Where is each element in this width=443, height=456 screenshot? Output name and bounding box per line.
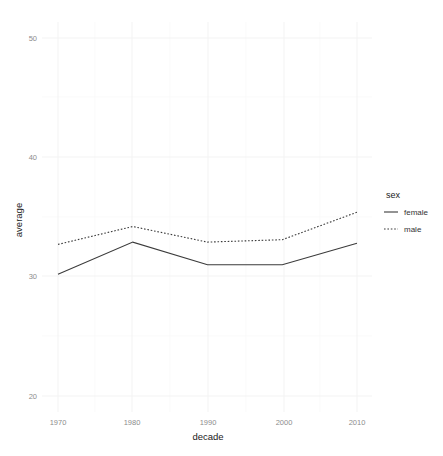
y-tick-label: 50	[29, 34, 37, 43]
x-tick-label: 1980	[124, 418, 141, 427]
y-tick-label: 30	[29, 272, 37, 281]
chart-container: 50 40 30 20 1970 1980 1990 2000 2010 dec…	[0, 0, 443, 456]
y-tick-label: 40	[29, 153, 37, 162]
legend-title: sex	[386, 190, 401, 200]
x-tick-label: 2000	[276, 418, 293, 427]
y-tick-label: 20	[29, 392, 37, 401]
x-axis-title: decade	[192, 431, 223, 442]
x-tick-label: 2010	[349, 418, 366, 427]
legend-label-female: female	[404, 208, 429, 217]
y-axis-title: average	[13, 203, 24, 237]
x-tick-label: 1990	[200, 418, 217, 427]
line-chart: 50 40 30 20 1970 1980 1990 2000 2010 dec…	[0, 0, 443, 456]
legend-label-male: male	[404, 225, 422, 234]
x-tick-label: 1970	[50, 418, 67, 427]
